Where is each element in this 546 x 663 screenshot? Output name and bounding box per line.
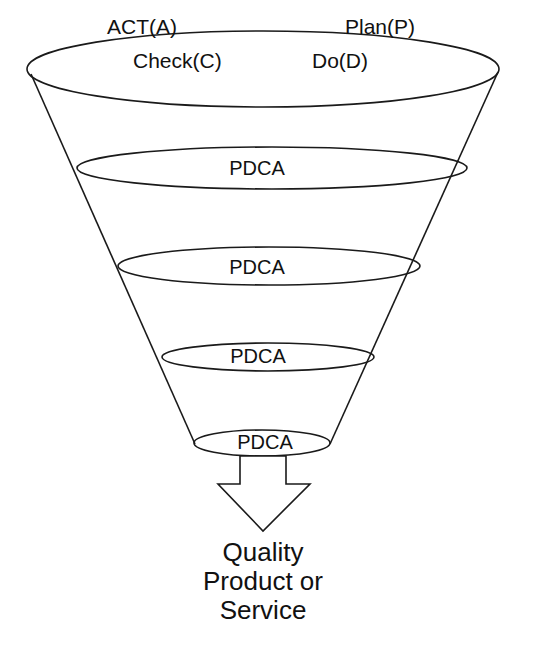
down-arrow-icon: [218, 456, 310, 531]
ring-4-label: PDCA: [237, 431, 293, 453]
output-label: Quality Product or Service: [203, 538, 323, 625]
check-label: Check(C): [133, 50, 222, 72]
do-label: Do(D): [312, 50, 368, 72]
output-line-1: Quality: [203, 538, 323, 567]
ring-3-label: PDCA: [230, 345, 286, 367]
ring-1-label: PDCA: [229, 157, 285, 179]
top-ring: [27, 31, 499, 107]
pdca-funnel-diagram: ACT(A) Plan(P) Check(C) Do(D) PDCA PDCA …: [0, 0, 546, 663]
funnel-right-edge: [330, 72, 498, 444]
plan-label: Plan(P): [345, 16, 415, 38]
funnel-left-edge: [31, 74, 195, 444]
ring-2-label: PDCA: [229, 256, 285, 278]
output-line-3: Service: [203, 596, 323, 625]
output-line-2: Product or: [203, 567, 323, 596]
act-label: ACT(A): [107, 16, 177, 38]
